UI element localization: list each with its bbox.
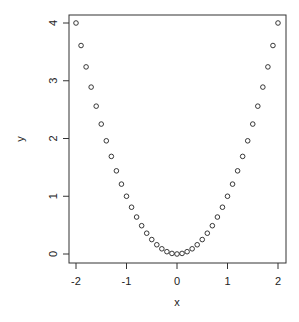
data-point — [104, 139, 109, 144]
data-point — [149, 237, 154, 242]
y-tick-label: 1 — [47, 193, 59, 199]
data-point — [276, 21, 281, 26]
data-point — [129, 205, 134, 210]
x-tick-label: 2 — [275, 275, 281, 287]
data-point — [155, 242, 160, 247]
data-point — [225, 194, 230, 199]
data-point — [165, 249, 170, 254]
data-point — [94, 104, 99, 109]
data-point — [240, 154, 245, 159]
data-point — [84, 65, 89, 70]
data-point — [190, 247, 195, 252]
data-point — [180, 251, 185, 256]
y-axis-label: y — [14, 136, 26, 142]
data-point — [124, 194, 129, 199]
data-point — [119, 182, 124, 187]
data-point — [144, 231, 149, 236]
x-tick-label: -1 — [122, 275, 132, 287]
data-point — [99, 122, 104, 127]
y-tick-label: 4 — [47, 20, 59, 26]
data-point — [271, 43, 276, 48]
data-point — [235, 169, 240, 174]
data-point — [74, 21, 79, 26]
data-point — [266, 65, 271, 70]
y-axis: 01234 — [47, 20, 69, 257]
y-tick-label: 3 — [47, 78, 59, 84]
data-point — [175, 252, 180, 257]
data-point — [250, 122, 255, 127]
data-point — [139, 223, 144, 228]
x-tick-label: -2 — [71, 275, 81, 287]
data-point — [200, 237, 205, 242]
data-point — [79, 43, 84, 48]
x-tick-label: 0 — [174, 275, 180, 287]
data-point — [215, 215, 220, 220]
data-point — [89, 85, 94, 90]
y-tick-label: 0 — [47, 251, 59, 257]
data-point — [160, 247, 165, 252]
data-point — [220, 205, 225, 210]
y-tick-label: 2 — [47, 135, 59, 141]
x-tick-label: 1 — [224, 275, 230, 287]
data-point — [109, 154, 114, 159]
data-point — [255, 104, 260, 109]
data-point — [114, 169, 119, 174]
data-point — [185, 249, 190, 254]
data-point — [195, 242, 200, 247]
data-point — [230, 182, 235, 187]
plot-box — [69, 15, 286, 263]
scatter-chart: -2-1012 01234 x y — [0, 0, 299, 322]
data-point — [210, 223, 215, 228]
data-point — [134, 215, 139, 220]
data-point — [261, 85, 266, 90]
data-point — [170, 251, 175, 256]
x-axis: -2-1012 — [71, 263, 281, 287]
x-axis-label: x — [174, 296, 180, 308]
data-point — [245, 139, 250, 144]
data-point — [205, 231, 210, 236]
data-points — [74, 21, 281, 257]
